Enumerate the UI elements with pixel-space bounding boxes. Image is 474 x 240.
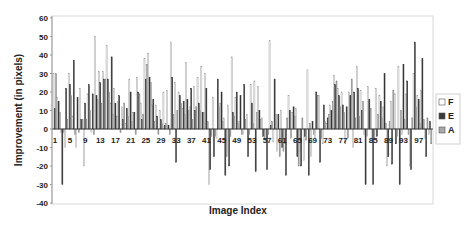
bar-a [245, 120, 246, 129]
bar-f [254, 81, 255, 129]
bar-f [205, 74, 206, 130]
bar-a [82, 120, 83, 129]
bar-a [302, 118, 303, 129]
legend-label-a: A [448, 125, 455, 135]
x-tick-label: 21 [126, 136, 135, 145]
bar-f [178, 92, 179, 129]
bar-f [163, 92, 164, 129]
bar-e [232, 112, 233, 129]
bar-a [211, 129, 212, 136]
bar-f [72, 116, 73, 129]
bar-a [294, 116, 295, 129]
bar-e [365, 129, 366, 185]
x-tick-label: 93 [399, 136, 408, 145]
bar-e [66, 88, 67, 129]
bar-a [275, 114, 276, 129]
bar-a [143, 114, 144, 129]
bar-f [227, 105, 228, 129]
bar-e [236, 92, 237, 129]
bar-f [95, 37, 96, 130]
y-tick-label: 50 [39, 33, 48, 42]
x-tick-label: 69 [308, 136, 317, 145]
bar-f [87, 94, 88, 129]
bar-e [403, 64, 404, 129]
bar-e [96, 96, 97, 129]
bar-e [138, 92, 139, 129]
x-tick-label: 97 [414, 136, 423, 145]
bar-e [229, 129, 230, 166]
bar-f [398, 66, 399, 129]
bar-a [120, 129, 121, 133]
bar-f [250, 85, 251, 129]
bar-e [54, 109, 55, 129]
legend-swatch-f [439, 99, 445, 105]
bar-f [121, 107, 122, 129]
bar-a [363, 101, 364, 129]
bar-a [317, 96, 318, 129]
bar-f [170, 42, 171, 129]
bar-f [68, 74, 69, 130]
x-axis-title: Image Index [209, 205, 267, 216]
bar-e [429, 122, 430, 129]
bar-e [115, 103, 116, 129]
bar-a [366, 129, 367, 136]
bar-a [222, 122, 223, 129]
x-tick-label: 89 [384, 136, 393, 145]
bar-e [69, 85, 70, 129]
bar-f [405, 94, 406, 129]
x-tick-label: 85 [369, 136, 378, 145]
bar-f [243, 129, 244, 135]
bar-a [249, 129, 250, 135]
bar-a [165, 123, 166, 129]
x-tick-label: 77 [338, 136, 347, 145]
bar-a [196, 107, 197, 129]
bar-a [393, 90, 394, 129]
bar-f [368, 86, 369, 129]
x-tick-label: 61 [278, 136, 287, 145]
bar-f [174, 83, 175, 129]
bar-e [183, 101, 184, 129]
bar-f [98, 72, 99, 129]
bar-a [272, 122, 273, 129]
bar-a [381, 118, 382, 129]
bar-a [158, 129, 159, 135]
bar-a [90, 111, 91, 130]
x-tick-label: 53 [248, 136, 257, 145]
bar-e [221, 92, 222, 129]
bar-e [357, 88, 358, 129]
bar-e [380, 101, 381, 129]
bar-e [414, 42, 415, 129]
bar-a [260, 120, 261, 129]
bar-a [74, 129, 75, 135]
bar-e [107, 79, 108, 129]
bar-f [413, 74, 414, 130]
bar-a [162, 123, 163, 129]
bar-f [133, 112, 134, 129]
bar-e [164, 125, 165, 129]
bar-e [301, 129, 302, 166]
bar-f [409, 129, 410, 166]
bar-e [323, 105, 324, 129]
x-tick-label: 81 [354, 136, 363, 145]
bar-a [253, 123, 254, 129]
bar-a [241, 129, 242, 135]
legend-swatch-a [439, 127, 445, 133]
bar-a [184, 114, 185, 129]
bar-f [102, 72, 103, 129]
bar-e [339, 96, 340, 129]
bar-f [303, 129, 304, 160]
bar-a [431, 129, 432, 144]
bar-f [57, 98, 58, 129]
y-tick-label: 10 [39, 107, 48, 116]
bar-f [61, 129, 62, 133]
bar-a [78, 129, 79, 133]
bar-e [270, 125, 271, 129]
bar-e [217, 79, 218, 129]
x-tick-label: 13 [96, 136, 105, 145]
bar-a [427, 118, 428, 129]
bar-f [129, 79, 130, 129]
bar-f [288, 96, 289, 129]
bar-a [131, 122, 132, 129]
bar-e [293, 107, 294, 129]
bar-e [411, 129, 412, 170]
